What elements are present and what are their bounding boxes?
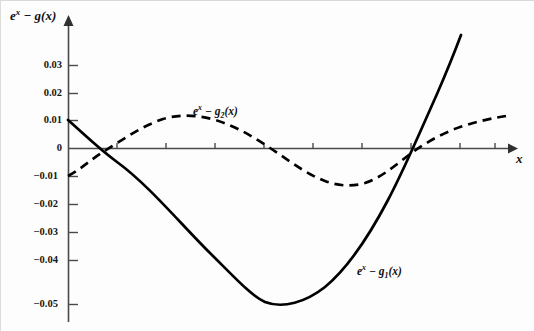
y-tick-label-3: 0 — [20, 143, 62, 154]
y-axis-title: ex − g(x) — [10, 8, 56, 22]
y-axis-title-minus: − — [20, 8, 34, 23]
x-axis — [68, 143, 518, 154]
y-axis — [64, 15, 79, 322]
curve-label-g1-tail: (x) — [388, 265, 401, 277]
y-axis-title-func: g(x) — [35, 8, 57, 23]
chart-figure: ex − g(x) x 0.03 0.02 0.01 0 −0.01 −0.02… — [0, 0, 534, 331]
y-tick-label-0: 0.03 — [20, 60, 62, 71]
y-tick-label-6: −0.03 — [16, 227, 58, 238]
curve-label-g2-tail: (x) — [224, 105, 237, 117]
plot-area — [0, 0, 534, 331]
y-tick-label-8: −0.05 — [16, 299, 58, 310]
x-axis-title: x — [516, 152, 523, 165]
y-axis-ticks — [69, 66, 78, 305]
y-tick-label-5: −0.02 — [16, 199, 58, 210]
curve-label-e-minus-g1: ex − g1(x) — [357, 264, 402, 280]
y-tick-label-4: −0.01 — [16, 171, 58, 182]
curve-label-e-minus-g2: ex − g2(x) — [193, 104, 238, 120]
y-axis-arrowhead — [64, 15, 74, 26]
curve-label-g2-minus: − — [202, 105, 215, 117]
curve-label-g1-minus: − — [366, 265, 379, 277]
y-tick-label-7: −0.04 — [16, 255, 58, 266]
y-tick-label-1: 0.02 — [20, 88, 62, 99]
curve-e-minus-g1 — [68, 35, 461, 305]
y-tick-label-2: 0.01 — [20, 115, 62, 126]
